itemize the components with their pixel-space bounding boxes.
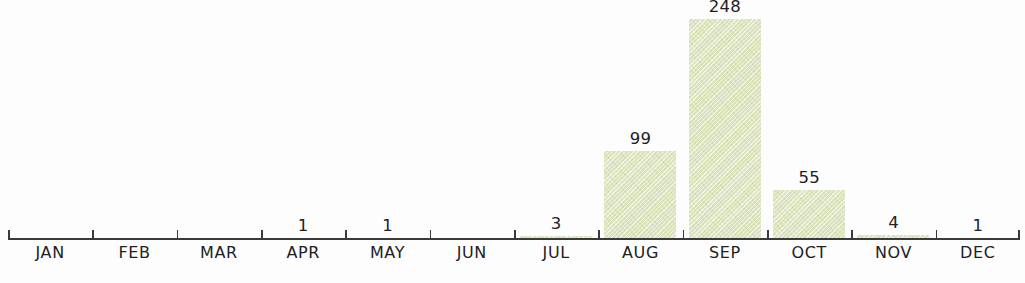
x-tick-label-sep: SEP	[709, 243, 741, 262]
bar-slot-nov: 4	[851, 0, 935, 239]
x-tick-label-apr: APR	[286, 243, 320, 262]
month-label-slot-jun: JUN	[430, 243, 514, 262]
x-axis-tick-10	[851, 230, 853, 239]
x-axis-tick-6	[514, 230, 516, 239]
bar-slot-jan	[8, 0, 92, 239]
x-axis-tick-11	[936, 230, 938, 239]
x-axis-tick-7	[598, 230, 600, 239]
x-axis-tick-4	[345, 230, 347, 239]
x-axis-tick-3	[261, 230, 263, 239]
x-axis-tick-0	[8, 230, 10, 239]
x-tick-label-feb: FEB	[118, 243, 150, 262]
month-label-slot-mar: MAR	[177, 243, 261, 262]
month-label-slot-jan: JAN	[8, 243, 92, 262]
month-label-slot-sep: SEP	[683, 243, 767, 262]
bar-value-label-aug: 99	[630, 129, 651, 148]
x-axis-tick-9	[767, 230, 769, 239]
bar-aug[interactable]	[604, 151, 676, 239]
bar-sep[interactable]	[689, 19, 761, 239]
bar-slot-mar	[177, 0, 261, 239]
month-label-slot-may: MAY	[345, 243, 429, 262]
month-label-slot-aug: AUG	[598, 243, 682, 262]
clipped-caption-text	[18, 276, 1008, 283]
month-label-slot-jul: JUL	[514, 243, 598, 262]
bar-chart-figure: 113992485541 JANFEBMARAPRMAYJUNJULAUGSEP…	[0, 0, 1025, 283]
x-tick-label-aug: AUG	[622, 243, 659, 262]
bar-value-label-jul: 3	[551, 214, 562, 233]
month-label-slot-dec: DEC	[936, 243, 1020, 262]
bar-slot-may: 1	[345, 0, 429, 239]
x-tick-label-oct: OCT	[791, 243, 826, 262]
month-label-slot-feb: FEB	[92, 243, 176, 262]
x-axis-tick-8	[683, 230, 685, 239]
bar-slot-dec: 1	[936, 0, 1020, 239]
plot-area: 113992485541	[8, 0, 1020, 239]
x-tick-label-dec: DEC	[960, 243, 995, 262]
bar-oct[interactable]	[773, 190, 845, 239]
bar-slot-apr: 1	[261, 0, 345, 239]
bar-slot-jun	[430, 0, 514, 239]
x-tick-label-mar: MAR	[200, 243, 238, 262]
x-tick-label-jan: JAN	[36, 243, 65, 262]
x-tick-label-may: MAY	[370, 243, 405, 262]
x-axis-tick-labels: JANFEBMARAPRMAYJUNJULAUGSEPOCTNOVDEC	[8, 243, 1020, 271]
bar-slot-sep: 248	[683, 0, 767, 239]
bar-slot-jul: 3	[514, 0, 598, 239]
bar-value-label-apr: 1	[298, 216, 309, 235]
month-label-slot-nov: NOV	[851, 243, 935, 262]
x-tick-label-jun: JUN	[457, 243, 487, 262]
bar-value-label-sep: 248	[709, 0, 741, 16]
x-axis-tick-12	[1018, 230, 1020, 239]
x-axis-tick-1	[92, 230, 94, 239]
x-tick-label-nov: NOV	[875, 243, 912, 262]
bar-value-label-dec: 1	[972, 216, 983, 235]
month-label-slot-apr: APR	[261, 243, 345, 262]
bar-value-label-oct: 55	[798, 168, 819, 187]
bar-slot-aug: 99	[598, 0, 682, 239]
bar-slot-oct: 55	[767, 0, 851, 239]
bar-value-label-nov: 4	[888, 213, 899, 232]
month-label-slot-oct: OCT	[767, 243, 851, 262]
bar-value-label-may: 1	[382, 216, 393, 235]
x-axis-tick-5	[430, 230, 432, 239]
x-axis-tick-2	[177, 230, 179, 239]
x-tick-label-jul: JUL	[543, 243, 570, 262]
bar-slot-feb	[92, 0, 176, 239]
